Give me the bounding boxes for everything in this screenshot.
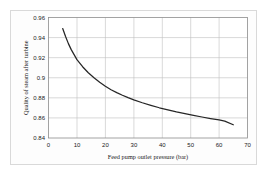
x-axis-tick-labels: 0 10 20 30 40 50 60 70 — [47, 142, 252, 148]
x-tick-label: 70 — [244, 142, 251, 148]
y-tick-label: 0.9 — [37, 75, 46, 81]
x-tick-label: 10 — [74, 142, 81, 148]
y-tick-label: 0.86 — [33, 115, 45, 121]
figure-container: 0.96 0.94 0.92 0.9 0.88 0.86 0.84 0 10 2… — [0, 0, 269, 175]
x-axis-title: Feed pump outlet pressure (bar) — [108, 153, 188, 161]
x-tick-label: 30 — [131, 142, 138, 148]
y-axis-title: Quality of steam after turbine — [22, 40, 29, 115]
y-tick-label: 0.94 — [33, 35, 45, 41]
x-tick-label: 20 — [102, 142, 109, 148]
x-tick-label: 40 — [159, 142, 166, 148]
y-tick-label: 0.96 — [33, 15, 45, 21]
x-tick-label: 0 — [47, 142, 51, 148]
steam-quality-chart: 0.96 0.94 0.92 0.9 0.88 0.86 0.84 0 10 2… — [0, 0, 269, 175]
y-tick-label: 0.84 — [33, 135, 45, 141]
y-axis-tick-labels: 0.96 0.94 0.92 0.9 0.88 0.86 0.84 — [33, 15, 45, 141]
x-tick-label: 50 — [187, 142, 194, 148]
x-tick-label: 60 — [216, 142, 223, 148]
y-tick-label: 0.92 — [33, 55, 45, 61]
y-tick-label: 0.88 — [33, 95, 45, 101]
